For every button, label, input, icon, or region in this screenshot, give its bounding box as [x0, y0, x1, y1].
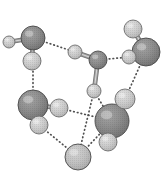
- hydrogen-atom: [122, 50, 136, 64]
- hydrogen-bond: [105, 58, 123, 60]
- oxygen-atom: [18, 90, 48, 120]
- hydrogen-bond: [45, 130, 69, 150]
- molecular-diagram-figure: [0, 0, 164, 173]
- oxygen-atom: [89, 51, 107, 69]
- hydrogen-bond: [128, 63, 140, 91]
- hydrogen-atom: [3, 36, 15, 48]
- hydrogen-atom: [68, 45, 82, 59]
- molecule-canvas: [0, 0, 164, 173]
- hydrogen-atom: [30, 116, 48, 134]
- hydrogen-atom: [87, 84, 101, 98]
- hydrogen-atom: [99, 133, 117, 151]
- hydrogen-atom: [124, 20, 142, 38]
- hydrogen-atom: [50, 99, 68, 117]
- oxygen-atom: [132, 38, 160, 66]
- hydrogen-atom: [115, 89, 135, 109]
- hydrogen-bond: [43, 41, 70, 50]
- hydrogen-bond: [97, 96, 104, 108]
- hydrogen-atom: [23, 52, 41, 70]
- oxygen-atom: [65, 144, 91, 170]
- hydrogen-bond: [66, 110, 97, 118]
- oxygen-atom: [21, 26, 45, 50]
- hydrogen-bond: [81, 96, 93, 145]
- atom-layer: [3, 20, 160, 170]
